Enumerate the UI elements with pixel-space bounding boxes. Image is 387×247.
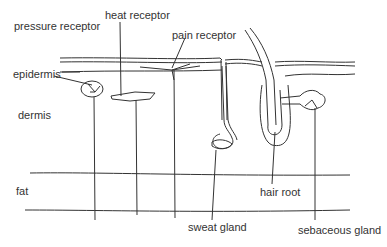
skin-diagram: pressure receptor heat receptor pain rec… <box>0 0 387 247</box>
label-hair-root: hair root <box>260 187 300 198</box>
label-sweat-gland: sweat gland <box>188 222 247 233</box>
label-pressure-receptor: pressure receptor <box>14 21 100 32</box>
label-dermis: dermis <box>18 110 51 121</box>
label-epidermis: epidermis <box>13 69 61 80</box>
label-heat-receptor: heat receptor <box>105 10 170 21</box>
label-fat: fat <box>16 186 28 197</box>
label-pain-receptor: pain receptor <box>172 30 236 41</box>
label-sebaceous-gland: sebaceous gland <box>298 225 381 236</box>
